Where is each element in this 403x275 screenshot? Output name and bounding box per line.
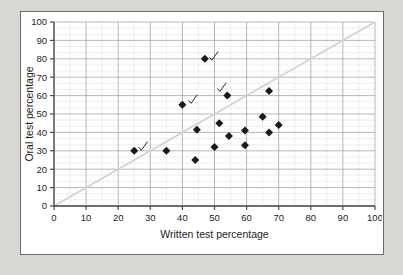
x-tick-label: 80 bbox=[306, 212, 317, 223]
data-point bbox=[225, 132, 233, 140]
check-mark-icon bbox=[218, 83, 226, 91]
chart-figure-panel: 0102030405060708090100 01020304050607080… bbox=[20, 11, 384, 255]
data-point bbox=[162, 147, 170, 155]
check-mark-icon bbox=[189, 95, 197, 103]
data-point bbox=[241, 127, 249, 135]
y-tick-label: 50 bbox=[36, 108, 47, 119]
plot-stage: 0102030405060708090100 01020304050607080… bbox=[21, 12, 383, 254]
y-tick-label: 90 bbox=[36, 35, 47, 46]
y-tick-label: 20 bbox=[36, 164, 47, 175]
x-axis-tick-labels: 0102030405060708090100 bbox=[51, 212, 382, 223]
y-tick-label: 10 bbox=[36, 182, 47, 193]
x-tick-label: 20 bbox=[113, 212, 124, 223]
y-axis-title: Oral test percentage bbox=[23, 66, 35, 161]
y-tick-label: 70 bbox=[36, 72, 47, 83]
x-tick-label: 40 bbox=[177, 212, 188, 223]
x-tick-label: 50 bbox=[209, 212, 220, 223]
x-tick-label: 30 bbox=[145, 212, 156, 223]
data-point bbox=[265, 87, 273, 95]
x-tick-label: 90 bbox=[338, 212, 349, 223]
cropped-header-sliver bbox=[0, 0, 403, 9]
scatter-chart: 0102030405060708090100 01020304050607080… bbox=[21, 12, 382, 253]
x-tick-label: 0 bbox=[51, 212, 56, 223]
data-point bbox=[130, 147, 138, 155]
y-tick-label: 0 bbox=[42, 200, 47, 211]
data-point bbox=[265, 128, 273, 136]
y-tick-label: 30 bbox=[36, 145, 47, 156]
x-axis-title: Written test percentage bbox=[160, 228, 269, 240]
x-tick-label: 10 bbox=[81, 212, 92, 223]
x-tick-label: 100 bbox=[367, 212, 382, 223]
data-point bbox=[201, 55, 209, 63]
y-tick-label: 80 bbox=[36, 53, 47, 64]
data-point bbox=[275, 121, 283, 129]
check-mark-icon bbox=[139, 142, 147, 150]
x-tick-label: 60 bbox=[241, 212, 252, 223]
data-point bbox=[211, 143, 219, 151]
y-tick-label: 100 bbox=[31, 16, 47, 27]
data-point bbox=[241, 141, 249, 149]
x-tick-label: 70 bbox=[273, 212, 284, 223]
y-tick-label: 60 bbox=[36, 90, 47, 101]
data-point bbox=[223, 92, 231, 100]
y-tick-label: 40 bbox=[36, 127, 47, 138]
